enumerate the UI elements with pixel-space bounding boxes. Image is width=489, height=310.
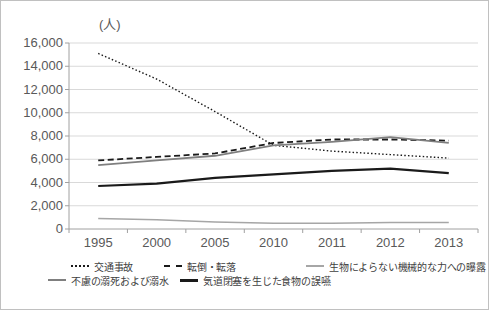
legend-label: 生物によらない機械的な力への曝露 bbox=[329, 259, 486, 274]
svg-text:2011: 2011 bbox=[318, 235, 346, 250]
svg-text:10,000: 10,000 bbox=[23, 105, 63, 120]
svg-text:2,000: 2,000 bbox=[30, 198, 63, 213]
svg-text:2010: 2010 bbox=[259, 235, 288, 250]
svg-text:0: 0 bbox=[56, 221, 63, 236]
legend-label: 気道閉塞を生じた食物の誤嚥 bbox=[203, 273, 330, 288]
svg-text:6,000: 6,000 bbox=[30, 151, 63, 166]
solid-line-icon bbox=[306, 265, 324, 267]
svg-text:12,000: 12,000 bbox=[23, 82, 63, 97]
svg-text:2000: 2000 bbox=[142, 235, 171, 250]
svg-text:2013: 2013 bbox=[434, 235, 463, 250]
svg-text:2005: 2005 bbox=[201, 235, 230, 250]
svg-text:8,000: 8,000 bbox=[30, 128, 63, 143]
svg-text:16,000: 16,000 bbox=[23, 35, 63, 50]
svg-text:1995: 1995 bbox=[84, 235, 113, 250]
legend-item-accidental-drowning: 不慮の溺死および溺水 bbox=[48, 274, 169, 286]
dashed-line-icon bbox=[164, 265, 182, 267]
legend-label: 不慮の溺死および溺水 bbox=[71, 273, 169, 288]
svg-text:2012: 2012 bbox=[376, 235, 405, 250]
legend-item-falls: 転倒・転落 bbox=[164, 260, 236, 272]
svg-text:14,000: 14,000 bbox=[23, 58, 63, 73]
legend-item-choking-on-food: 気道閉塞を生じた食物の誤嚥 bbox=[180, 274, 330, 286]
dotted-line-icon bbox=[71, 265, 89, 267]
legend-label: 転倒・転落 bbox=[187, 259, 236, 274]
legend-item-traffic-accidents: 交通事故 bbox=[71, 260, 133, 272]
legend-item-inanimate-mechanical-forces: 生物によらない機械的な力への曝露 bbox=[306, 260, 486, 272]
legend-label: 交通事故 bbox=[94, 259, 133, 274]
solid-line-icon bbox=[48, 279, 66, 281]
svg-text:4,000: 4,000 bbox=[30, 175, 63, 190]
accidental-deaths-line-chart: (人) 02,0004,0006,0008,00010,00012,00014,… bbox=[0, 0, 489, 310]
solid-line-icon bbox=[180, 279, 198, 282]
